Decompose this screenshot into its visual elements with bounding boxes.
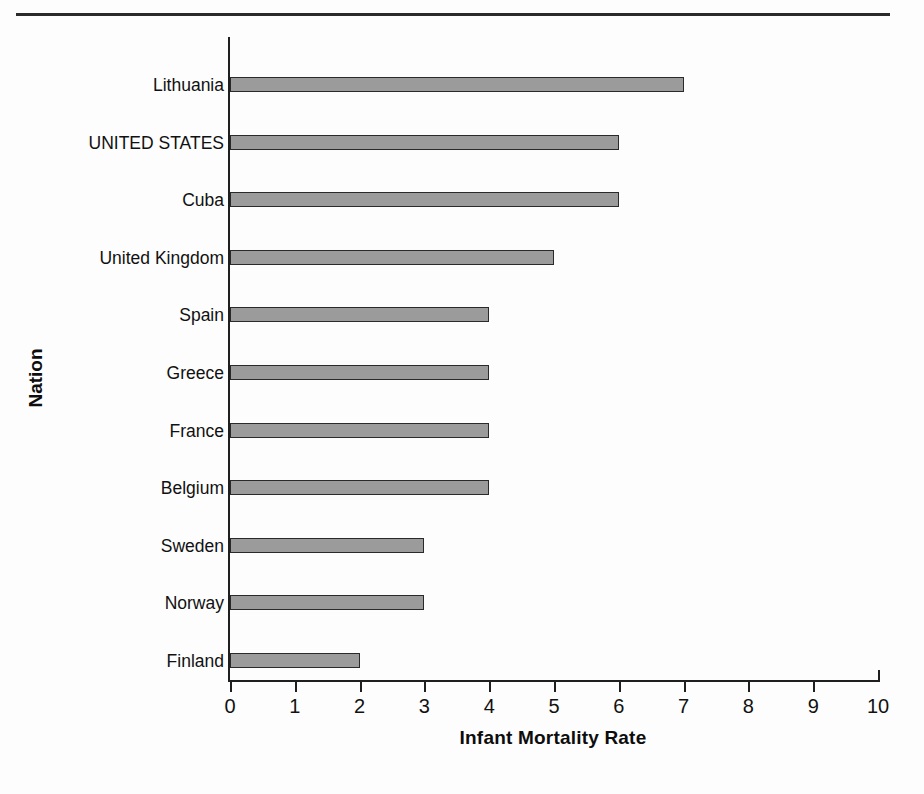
x-axis-title: Infant Mortality Rate — [228, 727, 878, 749]
x-tick-mark — [813, 682, 815, 692]
x-tick-label: 6 — [599, 694, 639, 718]
x-tick-label: 9 — [793, 694, 833, 718]
x-tick-label: 8 — [728, 694, 768, 718]
x-tick-label: 0 — [210, 694, 250, 718]
chart-page: LithuaniaUNITED STATESCubaUnited Kingdom… — [0, 0, 924, 794]
x-tick-mark — [619, 682, 621, 692]
bar-row: Cuba — [0, 191, 924, 209]
bar — [230, 365, 489, 380]
x-tick-mark — [424, 682, 426, 692]
bar-row: Finland — [0, 652, 924, 670]
x-tick-mark — [360, 682, 362, 692]
category-label: UNITED STATES — [0, 134, 224, 152]
category-label: Norway — [0, 594, 224, 612]
category-label: Finland — [0, 652, 224, 670]
bar-row: United Kingdom — [0, 249, 924, 267]
x-tick-mark — [230, 682, 232, 692]
category-label: Cuba — [0, 191, 224, 209]
x-tick-label: 7 — [664, 694, 704, 718]
bar — [230, 307, 489, 322]
bar-row: UNITED STATES — [0, 134, 924, 152]
bar — [230, 653, 360, 668]
x-tick-mark — [295, 682, 297, 692]
bar — [230, 595, 424, 610]
category-label: Lithuania — [0, 76, 224, 94]
bar-row: Belgium — [0, 479, 924, 497]
bar — [230, 538, 424, 553]
y-axis-title-text: Nation — [25, 348, 47, 407]
bar — [230, 77, 684, 92]
x-tick-label: 3 — [404, 694, 444, 718]
x-tick-label: 5 — [534, 694, 574, 718]
bar-chart-plot-area: LithuaniaUNITED STATESCubaUnited Kingdom… — [0, 0, 924, 794]
x-tick-mark — [489, 682, 491, 692]
bar-row: France — [0, 422, 924, 440]
bar-row: Spain — [0, 306, 924, 324]
bar — [230, 423, 489, 438]
bar — [230, 480, 489, 495]
x-axis-line — [228, 680, 878, 682]
x-tick-mark — [748, 682, 750, 692]
y-axis-title: Nation — [14, 318, 58, 438]
bar-row: Sweden — [0, 537, 924, 555]
bar-row: Norway — [0, 594, 924, 612]
x-tick-mark — [878, 670, 880, 682]
bar-row: Lithuania — [0, 76, 924, 94]
bar — [230, 135, 619, 150]
bar-row: Greece — [0, 364, 924, 382]
category-label: United Kingdom — [0, 249, 224, 267]
x-tick-mark — [554, 682, 556, 692]
category-label: Sweden — [0, 537, 224, 555]
category-label: Belgium — [0, 479, 224, 497]
bar — [230, 250, 554, 265]
bar — [230, 192, 619, 207]
x-tick-mark — [684, 682, 686, 692]
x-tick-label: 10 — [858, 694, 898, 718]
x-tick-label: 2 — [340, 694, 380, 718]
x-tick-label: 1 — [275, 694, 315, 718]
x-tick-label: 4 — [469, 694, 509, 718]
